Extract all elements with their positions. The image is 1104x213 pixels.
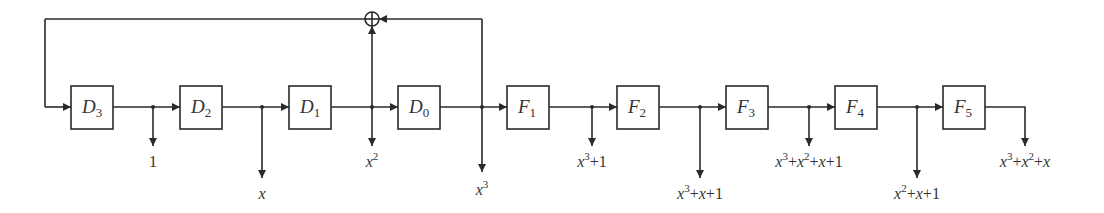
tap-label: x xyxy=(257,185,265,202)
block-f1: F1 xyxy=(507,86,549,129)
tap-label: x2+x+1 xyxy=(893,182,940,202)
tap-label: x3+x+1 xyxy=(676,182,723,202)
tap-f5: x3+x2+x xyxy=(999,150,1050,170)
tap-d2: x xyxy=(257,105,265,202)
tap-f2: x3+x+1 xyxy=(676,105,723,202)
tap-d1: x2 xyxy=(365,105,379,170)
tap-label: x3+x2+x xyxy=(999,150,1050,170)
block-d1: D1 xyxy=(289,86,331,129)
block-f2: F2 xyxy=(617,86,659,129)
tap-f4: x2+x+1 xyxy=(893,105,940,202)
tap-label: x3+x2+x+1 xyxy=(774,150,842,170)
block-d2: D2 xyxy=(180,86,222,129)
blocks: D3D2D1D0F1F2F3F4F5 xyxy=(71,86,985,129)
lfsr-diagram: 1xx2x3x3+1x3+x+1x3+x2+x+1x2+x+1x3+x2+x D… xyxy=(0,0,1104,213)
tap-f1: x3+1 xyxy=(576,105,607,170)
block-f5: F5 xyxy=(943,86,985,129)
xor-node xyxy=(365,12,379,26)
block-f4: F4 xyxy=(835,86,877,129)
tap-d0: x3 xyxy=(475,105,489,198)
tap-label: x3+1 xyxy=(576,150,607,170)
block-f3: F3 xyxy=(726,86,768,129)
tap-d3: 1 xyxy=(149,105,157,170)
tap-label: x2 xyxy=(365,150,379,170)
block-d3: D3 xyxy=(71,86,113,129)
wire-f5-out xyxy=(985,107,1025,146)
tap-label: x3 xyxy=(475,178,489,198)
block-d0: D0 xyxy=(398,86,440,129)
taps: 1xx2x3x3+1x3+x+1x3+x2+x+1x2+x+1x3+x2+x xyxy=(149,105,1050,202)
tap-f3: x3+x2+x+1 xyxy=(774,105,842,170)
main-chain xyxy=(113,107,1025,146)
tap-label: 1 xyxy=(149,153,157,170)
